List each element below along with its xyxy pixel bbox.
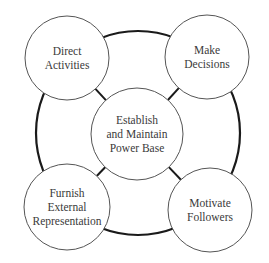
- node-make-decisions: MakeDecisions: [165, 15, 249, 99]
- leadership-functions-diagram: DirectActivitiesMakeDecisionsFurnishExte…: [0, 0, 269, 263]
- node-motivate-followers-label-line: Followers: [187, 211, 234, 223]
- node-furnish-external-representation: FurnishExternalRepresentation: [24, 164, 110, 250]
- connector-direct-activities: [95, 89, 105, 100]
- node-make-decisions-label-line: Make: [194, 44, 220, 56]
- node-motivate-followers-label-line: Motivate: [189, 197, 231, 209]
- node-direct-activities-circle: [25, 16, 109, 100]
- node-furnish-external-representation-label-line: External: [48, 201, 87, 213]
- node-make-decisions-label-line: Decisions: [184, 58, 230, 70]
- node-make-decisions-circle: [165, 15, 249, 99]
- node-motivate-followers: MotivateFollowers: [168, 168, 252, 252]
- connector-make-decisions: [168, 88, 179, 100]
- node-motivate-followers-circle: [168, 168, 252, 252]
- connector-furnish-external-representation: [97, 167, 105, 176]
- nodes: DirectActivitiesMakeDecisionsFurnishExte…: [24, 15, 252, 252]
- node-furnish-external-representation-label-line: Representation: [33, 215, 102, 228]
- node-center-power-base: Establishand MaintainPower Base: [91, 88, 183, 180]
- connector-motivate-followers: [169, 167, 181, 180]
- node-direct-activities-label-line: Direct: [53, 45, 83, 57]
- node-center-power-base-label-line: Power Base: [110, 142, 165, 154]
- node-direct-activities-label-line: Activities: [45, 59, 90, 71]
- node-center-power-base-label-line: Establish: [116, 114, 158, 126]
- node-center-power-base-label-line: and Maintain: [107, 128, 168, 140]
- node-direct-activities: DirectActivities: [25, 16, 109, 100]
- node-furnish-external-representation-label-line: Furnish: [49, 187, 84, 199]
